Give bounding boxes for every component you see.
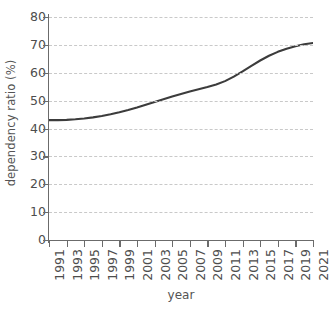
x-tick-mark-2013	[243, 241, 244, 247]
gridline-y-10	[49, 212, 313, 213]
gridline-y-70	[49, 45, 313, 46]
x-tick-mark-1997	[102, 241, 103, 247]
x-tick-mark-2015	[260, 241, 261, 247]
y-tick-mark-70	[43, 45, 49, 46]
y-axis-tick-labels: 01020304050607080	[14, 0, 46, 310]
x-tick-mark-2005	[172, 241, 173, 247]
y-tick-mark-40	[43, 129, 49, 130]
x-tick-mark-2007	[190, 241, 191, 247]
y-tick-mark-20	[43, 184, 49, 185]
x-tick-mark-2021	[313, 241, 314, 247]
x-tick-mark-1999	[119, 241, 120, 247]
x-tick-mark-2001	[137, 241, 138, 247]
data-line-path	[49, 43, 313, 120]
x-tick-mark-1995	[84, 241, 85, 247]
gridline-y-50	[49, 101, 313, 102]
x-tick-mark-2003	[155, 241, 156, 247]
gridline-y-60	[49, 73, 313, 74]
x-tick-mark-2011	[225, 241, 226, 247]
y-tick-mark-30	[43, 156, 49, 157]
x-tick-mark-2017	[278, 241, 279, 247]
y-tick-mark-50	[43, 101, 49, 102]
y-tick-mark-80	[43, 17, 49, 18]
x-tick-mark-2009	[207, 241, 208, 247]
x-tick-mark-2019	[295, 241, 296, 247]
gridline-y-30	[49, 156, 313, 157]
gridline-y-80	[49, 17, 313, 18]
x-tick-mark-1991	[49, 241, 50, 247]
y-tick-mark-10	[43, 212, 49, 213]
y-tick-mark-60	[43, 73, 49, 74]
x-axis-title: year	[49, 288, 313, 302]
gridline-y-20	[49, 184, 313, 185]
x-tick-mark-1993	[67, 241, 68, 247]
x-tick-label-2021: 2021	[318, 249, 331, 295]
gridline-y-40	[49, 129, 313, 130]
plot-area	[49, 17, 313, 240]
x-axis-line	[48, 240, 314, 241]
